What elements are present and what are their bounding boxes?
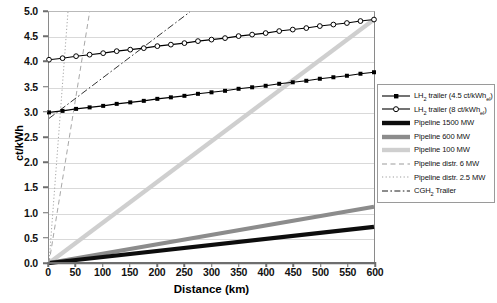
legend-key-dotted-gray-icon xyxy=(381,171,411,183)
data-point-marker xyxy=(182,41,187,46)
legend: LH2 trailer (4.5 ct/kWhel)LH2 trailer (8… xyxy=(377,84,495,203)
series-line-pipeline-distr-6-mw xyxy=(49,12,90,263)
legend-item[interactable]: Pipeline distr. 6 MW xyxy=(381,157,491,171)
y-tick-label: 2.5 xyxy=(24,131,38,143)
x-tick-mark xyxy=(211,262,213,267)
data-point-marker xyxy=(358,72,362,76)
y-tick-label: 4.0 xyxy=(24,55,38,67)
data-point-marker xyxy=(87,52,92,57)
data-point-marker xyxy=(182,94,186,98)
x-tick-mark xyxy=(184,262,186,267)
data-point-marker xyxy=(128,47,133,52)
data-point-marker xyxy=(169,95,173,99)
x-tick-mark xyxy=(293,262,295,267)
data-point-marker xyxy=(331,75,335,79)
series-line-pipeline-100-mw xyxy=(49,20,374,263)
data-point-marker xyxy=(74,107,78,111)
y-tick-label: 3.5 xyxy=(24,81,38,93)
legend-key-thick-gray-icon xyxy=(381,131,411,143)
data-point-marker xyxy=(210,90,214,94)
y-tick-mark xyxy=(43,161,48,163)
x-tick-label: 350 xyxy=(230,266,247,278)
legend-item[interactable]: LH2 trailer (4.5 ct/kWhel) xyxy=(381,89,491,103)
x-tick-mark xyxy=(320,262,322,267)
data-point-marker xyxy=(61,109,65,113)
legend-key-dashdot-black-icon xyxy=(381,185,411,197)
legend-key-line-open-circle-icon xyxy=(381,103,411,115)
legend-item[interactable]: LH2 trailer (8 ct/kWhel) xyxy=(381,103,491,117)
data-point-marker xyxy=(88,105,92,109)
y-axis-tick-labels: 0.00.51.01.52.02.53.03.54.04.55.0 xyxy=(0,0,46,303)
y-tick-mark xyxy=(43,136,48,138)
legend-label: LH2 trailer (8 ct/kWhel) xyxy=(414,106,487,114)
x-tick-label: 600 xyxy=(367,266,384,278)
chart-root: ct/kWh 0.00.51.01.52.02.53.03.54.04.55.0… xyxy=(0,0,497,303)
data-point-marker xyxy=(155,97,159,101)
data-point-marker xyxy=(372,17,377,22)
x-tick-label: 300 xyxy=(203,266,220,278)
data-point-marker xyxy=(237,87,241,91)
y-tick-mark xyxy=(43,187,48,189)
series-line-pipeline-600-mw xyxy=(49,207,374,263)
data-point-marker xyxy=(263,31,268,36)
y-tick-mark xyxy=(43,10,48,12)
x-tick-label: 100 xyxy=(94,266,111,278)
x-axis-title: Distance (km) xyxy=(48,283,375,295)
legend-label: Pipeline 1500 MW xyxy=(414,119,474,127)
data-point-marker xyxy=(74,54,79,59)
data-point-marker xyxy=(264,84,268,88)
data-point-marker xyxy=(345,74,349,78)
x-tick-label: 500 xyxy=(312,266,329,278)
x-tick-mark xyxy=(374,262,376,267)
legend-item[interactable]: Pipeline 600 MW xyxy=(381,130,491,144)
data-point-marker xyxy=(291,80,295,84)
plot-area xyxy=(48,11,375,263)
data-point-marker xyxy=(209,37,214,42)
data-point-marker xyxy=(155,44,160,49)
series-line-pipeline-distr-2-5-mw xyxy=(49,12,68,263)
legend-key-line-filled-square-icon xyxy=(381,90,411,102)
legend-item[interactable]: CGH2 Trailer xyxy=(381,184,491,198)
data-point-marker xyxy=(196,39,201,44)
x-tick-label: 50 xyxy=(70,266,81,278)
y-tick-label: 3.0 xyxy=(24,106,38,118)
data-series-layer xyxy=(49,12,374,263)
legend-key-thick-lightgray-icon xyxy=(381,144,411,156)
x-tick-mark xyxy=(102,262,104,267)
data-point-marker xyxy=(331,22,336,27)
y-tick-mark xyxy=(43,35,48,37)
y-tick-mark xyxy=(43,111,48,113)
legend-item[interactable]: Pipeline distr. 2.5 MW xyxy=(381,171,491,185)
legend-label: Pipeline distr. 2.5 MW xyxy=(414,174,485,182)
x-tick-mark xyxy=(47,262,49,267)
y-tick-mark xyxy=(43,212,48,214)
y-tick-label: 1.5 xyxy=(24,181,38,193)
y-tick-mark xyxy=(43,237,48,239)
legend-item[interactable]: Pipeline 100 MW xyxy=(381,143,491,157)
data-point-marker xyxy=(60,56,65,61)
x-tick-mark xyxy=(238,262,240,267)
data-point-marker xyxy=(250,32,255,37)
data-point-marker xyxy=(236,34,241,39)
x-tick-mark xyxy=(129,262,131,267)
data-point-marker xyxy=(223,36,228,41)
x-tick-label: 550 xyxy=(339,266,356,278)
legend-label: Pipeline 600 MW xyxy=(414,133,470,141)
data-point-marker xyxy=(277,29,282,34)
legend-key-thick-black-icon xyxy=(381,117,411,129)
y-tick-mark xyxy=(43,86,48,88)
y-tick-label: 5.0 xyxy=(24,5,38,17)
data-point-marker xyxy=(250,85,254,89)
y-tick-label: 0.0 xyxy=(24,257,38,269)
y-tick-mark xyxy=(43,61,48,63)
data-point-marker xyxy=(141,46,146,51)
legend-label: LH2 trailer (4.5 ct/kWhel) xyxy=(414,92,493,100)
data-point-marker xyxy=(101,51,106,56)
y-tick-label: 1.0 xyxy=(24,207,38,219)
y-tick-label: 4.5 xyxy=(24,30,38,42)
legend-item[interactable]: Pipeline 1500 MW xyxy=(381,116,491,130)
data-point-marker xyxy=(114,49,119,54)
y-tick-label: 2.0 xyxy=(24,156,38,168)
legend-label: Pipeline distr. 6 MW xyxy=(414,160,479,168)
data-point-marker xyxy=(142,99,146,103)
